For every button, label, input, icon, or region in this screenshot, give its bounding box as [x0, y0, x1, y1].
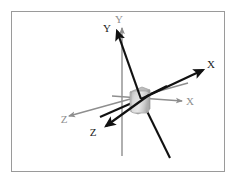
- black-z-axis-label: Z: [90, 126, 97, 138]
- coordinate-frames-diagram: Y X Z Y X Z: [0, 0, 237, 182]
- black-y-axis-label: Y: [103, 22, 111, 34]
- gray-y-axis-label: Y: [115, 13, 123, 25]
- gray-x-axis-label: X: [186, 95, 194, 107]
- gray-z-axis-label: Z: [61, 113, 68, 125]
- figure-root: Y X Z Y X Z: [0, 0, 237, 182]
- black-x-axis-label: X: [207, 58, 215, 70]
